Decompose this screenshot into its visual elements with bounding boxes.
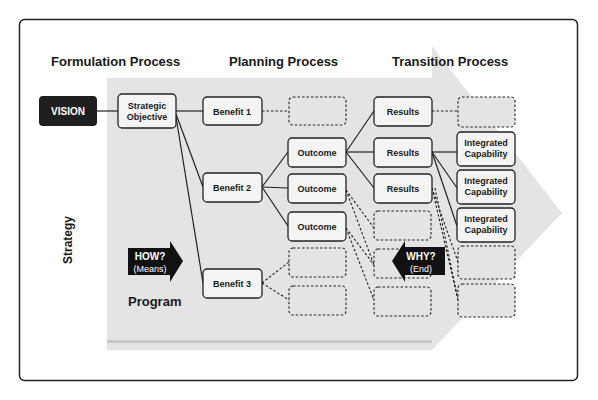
benefit-2-label: Benefit 2 (213, 183, 251, 193)
why-subtitle: (End) (410, 264, 432, 274)
cap-1-label-1: Integrated (464, 138, 508, 148)
strategic-objective-label-1: Strategic (128, 101, 167, 111)
outcome-1-label: Outcome (297, 148, 336, 158)
cap-2-label-1: Integrated (464, 176, 508, 186)
vision-label: VISION (51, 106, 85, 117)
benefit-3-label: Benefit 3 (213, 279, 251, 289)
program-label: Program (128, 294, 181, 309)
strategic-objective-node (118, 94, 176, 128)
results-2-label: Results (387, 148, 420, 158)
results-3-label: Results (387, 184, 420, 194)
cap-2-label-2: Capability (464, 187, 507, 197)
outcome-2-label: Outcome (297, 184, 336, 194)
why-title: WHY? (406, 251, 435, 262)
strategy-label: Strategy (61, 216, 75, 264)
cap-3-label-1: Integrated (464, 214, 508, 224)
header-transition-process: Transition Process (392, 54, 508, 69)
outcome-3-label: Outcome (297, 222, 336, 232)
cap-1-label-2: Capability (464, 149, 507, 159)
program-diagram: Formulation Process Planning Process Tra… (0, 0, 598, 400)
how-subtitle: (Means) (133, 264, 166, 274)
results-1-label: Results (387, 107, 420, 117)
cap-3-label-2: Capability (464, 225, 507, 235)
band-shadow (107, 340, 432, 343)
header-formulation-process: Formulation Process (51, 54, 180, 69)
strategic-objective-label-2: Objective (127, 112, 168, 122)
header-planning-process: Planning Process (229, 54, 338, 69)
benefit-1-label: Benefit 1 (213, 107, 251, 117)
how-title: HOW? (135, 251, 166, 262)
